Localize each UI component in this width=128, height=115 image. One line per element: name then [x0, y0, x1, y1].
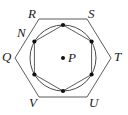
- point-upper-left-n: [32, 39, 36, 43]
- label-p: P: [68, 51, 76, 64]
- point-upper-right: [90, 39, 94, 43]
- label-r: R: [28, 7, 36, 20]
- point-lower-right: [90, 72, 94, 76]
- label-u: U: [89, 96, 98, 109]
- point-bottom: [61, 89, 65, 93]
- label-q: Q: [2, 50, 11, 63]
- label-v: V: [29, 96, 37, 109]
- label-n: N: [17, 26, 26, 39]
- geometry-diagram-canvas: R S N Q T V U P: [0, 0, 128, 115]
- point-center-p: [61, 56, 65, 60]
- point-lower-left: [32, 72, 36, 76]
- label-s: S: [88, 7, 95, 20]
- hexagon-circle-figure: [0, 0, 128, 115]
- point-top: [61, 23, 65, 27]
- label-t: T: [114, 50, 121, 63]
